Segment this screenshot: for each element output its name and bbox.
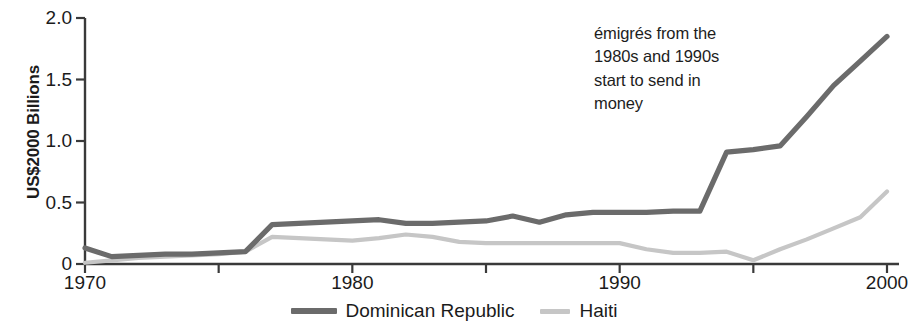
legend-item-dominican-republic[interactable]: Dominican Republic [291, 300, 515, 322]
annotation-line: money [594, 92, 794, 115]
legend-swatch-dominican-republic [291, 308, 337, 314]
annotation-line: émigrés from the [594, 22, 794, 45]
x-axis-tick-label: 1990 [599, 272, 641, 294]
annotation-line: 1980s and 1990s [594, 45, 794, 68]
x-axis-tick-label: 1970 [64, 272, 106, 294]
chart-annotation: émigrés from the1980s and 1990sstart to … [594, 22, 794, 116]
x-axis-tick-label: 2000 [866, 272, 908, 294]
x-axis-tick-label: 1980 [331, 272, 373, 294]
legend-item-haiti[interactable]: Haiti [540, 300, 617, 322]
chart-figure: US$2000 Billions 00.51.01.52.0 197019801… [0, 0, 908, 332]
legend-swatch-haiti [540, 309, 570, 314]
annotation-line: start to send in [594, 69, 794, 92]
legend-label: Dominican Republic [346, 300, 515, 322]
legend-label: Haiti [579, 300, 617, 322]
chart-legend: Dominican RepublicHaiti [0, 300, 908, 322]
